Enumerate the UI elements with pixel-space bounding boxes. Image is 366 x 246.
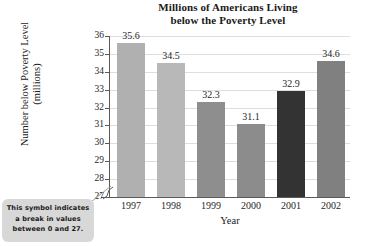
gridline xyxy=(110,72,350,73)
callout-line-1: This symbol indicates xyxy=(2,203,94,214)
y-tick-label: 31 xyxy=(88,120,104,130)
gridline xyxy=(110,108,350,109)
y-tick-mark xyxy=(105,54,110,55)
y-tick-mark xyxy=(105,90,110,91)
x-axis-label: Year xyxy=(110,215,350,226)
gridline xyxy=(110,179,350,180)
callout-line-2: a break in values xyxy=(2,214,94,225)
y-tick-mark xyxy=(105,179,110,180)
x-tick-label-1997: 1997 xyxy=(111,200,151,211)
x-tick-label-2000: 2000 xyxy=(231,200,271,211)
y-tick-mark xyxy=(105,108,110,109)
callout-line-3: between 0 and 27. xyxy=(2,224,94,235)
y-tick-mark xyxy=(105,161,110,162)
bar-1998 xyxy=(157,63,185,197)
gridline xyxy=(110,161,350,162)
y-tick-mark xyxy=(105,125,110,126)
bar-value-label-2002: 34.6 xyxy=(314,49,348,59)
bar-value-label-1997: 35.6 xyxy=(114,31,148,41)
y-tick-label: 32 xyxy=(88,103,104,113)
bar-value-label-1999: 32.3 xyxy=(194,90,228,100)
y-axis-label-line-1: Number below Poverty Level xyxy=(19,9,31,159)
y-tick-label: 34 xyxy=(88,67,104,77)
y-tick-mark xyxy=(105,143,110,144)
axis-break-callout: This symbol indicates a break in values … xyxy=(2,199,94,242)
chart-title-line-2: below the Poverty Level xyxy=(96,14,360,27)
y-axis-line xyxy=(109,36,110,198)
bar-2002 xyxy=(317,61,345,197)
y-axis-label-line-2: (millions) xyxy=(31,9,43,159)
y-tick-label: 35 xyxy=(88,49,104,59)
bar-2001 xyxy=(277,91,305,197)
x-tick-label-1999: 1999 xyxy=(191,200,231,211)
plot-area xyxy=(110,36,350,197)
y-tick-mark xyxy=(105,72,110,73)
x-tick-label-2001: 2001 xyxy=(271,200,311,211)
x-tick-label-2002: 2002 xyxy=(311,200,351,211)
y-tick-label: 29 xyxy=(88,156,104,166)
bar-1997 xyxy=(117,43,145,197)
gridline xyxy=(110,90,350,91)
chart-title: Millions of Americans Living below the P… xyxy=(96,1,360,26)
y-axis-label: Number below Poverty Level (millions) xyxy=(19,9,43,159)
y-tick-label: 30 xyxy=(88,138,104,148)
bar-1999 xyxy=(197,102,225,197)
x-tick-label-1998: 1998 xyxy=(151,200,191,211)
y-tick-label: 33 xyxy=(88,85,104,95)
bar-value-label-2001: 32.9 xyxy=(274,79,308,89)
bar-value-label-2000: 31.1 xyxy=(234,112,268,122)
gridline xyxy=(110,125,350,126)
y-tick-label: 28 xyxy=(88,174,104,184)
y-tick-mark xyxy=(105,36,110,37)
poverty-level-bar-chart: Millions of Americans Living below the P… xyxy=(0,0,366,246)
bar-2000 xyxy=(237,124,265,197)
gridline xyxy=(110,143,350,144)
bar-value-label-1998: 34.5 xyxy=(154,51,188,61)
chart-title-line-1: Millions of Americans Living xyxy=(96,1,360,14)
y-tick-label: 36 xyxy=(88,31,104,41)
x-axis-line xyxy=(101,197,350,198)
